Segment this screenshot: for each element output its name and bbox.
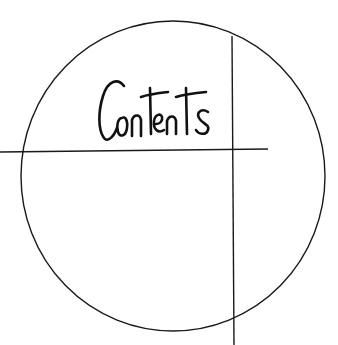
background (0, 0, 338, 345)
page-title: Contents (96, 94, 236, 154)
contents-graphic (0, 0, 338, 345)
